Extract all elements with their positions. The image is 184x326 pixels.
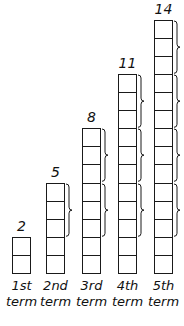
term-word-label: term: [36, 294, 76, 309]
unit-square: [46, 183, 65, 203]
term-word-label: term: [144, 294, 184, 309]
term-ordinal-label: 5th: [144, 278, 184, 293]
curly-brace-icon: [174, 21, 182, 73]
unit-square: [82, 255, 101, 275]
unit-square: [12, 255, 31, 275]
unit-square: [118, 110, 137, 130]
unit-square: [118, 74, 137, 94]
unit-square: [82, 128, 101, 148]
unit-square: [154, 110, 173, 130]
unit-square: [118, 146, 137, 166]
term-word-label: term: [72, 294, 112, 309]
unit-square: [82, 146, 101, 166]
term-ordinal-label: 3rd: [72, 278, 112, 293]
unit-square: [118, 255, 137, 275]
term-ordinal-label: 2nd: [36, 278, 76, 293]
term-value: 14: [149, 1, 179, 17]
term-value: 8: [77, 109, 107, 125]
curly-brace-icon: [174, 75, 182, 127]
unit-square: [46, 237, 65, 257]
unit-square: [154, 92, 173, 112]
unit-square: [154, 255, 173, 275]
unit-square: [154, 128, 173, 148]
unit-square: [154, 20, 173, 40]
unit-square: [118, 183, 137, 203]
unit-square: [154, 74, 173, 94]
unit-square: [46, 255, 65, 275]
curly-brace-icon: [138, 129, 146, 181]
unit-square: [154, 164, 173, 184]
curly-brace-icon: [138, 75, 146, 127]
term-value: 2: [7, 218, 37, 234]
curly-brace-icon: [102, 184, 110, 236]
unit-square: [82, 183, 101, 203]
term-value: 5: [41, 164, 71, 180]
curly-brace-icon: [102, 129, 110, 181]
unit-square: [46, 219, 65, 239]
unit-square: [82, 201, 101, 221]
unit-square: [118, 128, 137, 148]
unit-square: [154, 38, 173, 58]
unit-square: [154, 183, 173, 203]
unit-square: [154, 146, 173, 166]
curly-brace-icon: [66, 184, 74, 236]
unit-square: [118, 237, 137, 257]
unit-square: [82, 164, 101, 184]
unit-square: [118, 219, 137, 239]
term-ordinal-label: 4th: [108, 278, 148, 293]
unit-square: [46, 201, 65, 221]
unit-square: [118, 92, 137, 112]
curly-brace-icon: [174, 184, 182, 236]
unit-square: [154, 219, 173, 239]
unit-square: [154, 201, 173, 221]
unit-square: [118, 201, 137, 221]
unit-square: [154, 56, 173, 76]
unit-square: [82, 219, 101, 239]
unit-square: [12, 237, 31, 257]
curly-brace-icon: [174, 129, 182, 181]
curly-brace-icon: [138, 184, 146, 236]
unit-square: [154, 237, 173, 257]
unit-square: [118, 164, 137, 184]
unit-square: [82, 237, 101, 257]
term-value: 11: [113, 55, 143, 71]
term-word-label: term: [108, 294, 148, 309]
